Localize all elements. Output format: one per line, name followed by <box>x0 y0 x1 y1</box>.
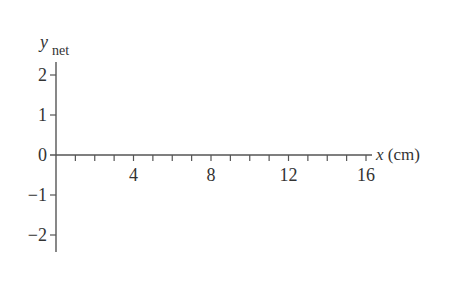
y-axis-label-subscript: net <box>52 43 69 58</box>
chart: y net 210−1−2 481216 x (cm) <box>0 0 463 295</box>
x-tick-label: 12 <box>280 165 298 185</box>
y-axis-label: y <box>38 32 48 52</box>
x-tick-label: 4 <box>129 165 138 185</box>
y-tick-label: 0 <box>38 145 47 165</box>
x-ticks: 481216 <box>75 155 375 185</box>
x-tick-label: 16 <box>357 165 375 185</box>
x-axis-label: x (cm) <box>375 145 420 164</box>
y-tick-label: 2 <box>38 65 47 85</box>
y-tick-label: −2 <box>28 225 47 245</box>
y-tick-label: 1 <box>38 105 47 125</box>
x-tick-label: 8 <box>207 165 216 185</box>
y-tick-label: −1 <box>28 185 47 205</box>
